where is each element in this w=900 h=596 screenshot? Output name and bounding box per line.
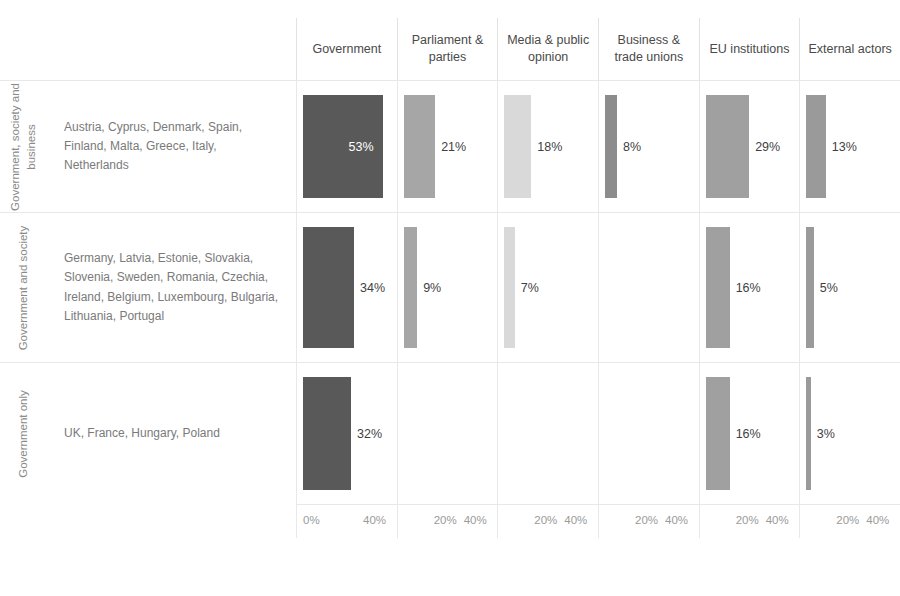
panel-r1-c4: 8% — [598, 80, 699, 212]
bar-wrap: 21% — [404, 95, 494, 198]
chart-grid: GovernmentParliament & partiesMedia & pu… — [0, 18, 900, 538]
axis-panel-3: 20%40% — [497, 504, 598, 538]
country-list-3: UK, France, Hungary, Poland — [48, 362, 296, 504]
axis-tick-label: 40% — [464, 514, 487, 526]
bar-value-label: 8% — [623, 140, 641, 154]
bar-wrap: 16% — [706, 227, 796, 348]
axis-corner-countries — [48, 504, 296, 538]
bar-value-label: 16% — [736, 281, 761, 295]
bar-value-label: 3% — [817, 427, 835, 441]
country-list-text: Germany, Latvia, Estonie, Slovakia, Slov… — [64, 249, 282, 326]
cluster-label-text: Government and society — [16, 225, 32, 350]
bar-value-label: 18% — [537, 140, 562, 154]
column-header-6: External actors — [799, 18, 900, 80]
bar-wrap: 29% — [706, 95, 796, 198]
bar-wrap: 18% — [504, 95, 594, 198]
column-header-2: Parliament & parties — [397, 18, 498, 80]
bar-value-label: 34% — [360, 281, 385, 295]
bar-value-label: 21% — [441, 140, 466, 154]
panel-r1-c3: 18% — [497, 80, 598, 212]
country-list-text: Austria, Cyprus, Denmark, Spain, Finland… — [64, 118, 282, 176]
bar-3-6 — [806, 377, 811, 490]
panel-r2-c6: 5% — [799, 212, 900, 362]
axis-tick-label: 40% — [766, 514, 789, 526]
bar-wrap — [605, 377, 695, 490]
bar-wrap: 16% — [706, 377, 796, 490]
bar-wrap: 8% — [605, 95, 695, 198]
panel-r3-c3 — [497, 362, 598, 504]
bar-wrap: 9% — [404, 227, 494, 348]
panel-r1-c6: 13% — [799, 80, 900, 212]
bar-value-label: 5% — [820, 281, 838, 295]
panel-r3-c1: 32% — [296, 362, 397, 504]
axis-panel-1: 0%40% — [296, 504, 397, 538]
axis-tick-label: 40% — [866, 514, 889, 526]
panel-r3-c6: 3% — [799, 362, 900, 504]
bar-value-label: 16% — [736, 427, 761, 441]
axis-tick-label: 40% — [363, 514, 386, 526]
bar-value-label: 29% — [755, 140, 780, 154]
bar-1-4 — [605, 95, 617, 198]
panel-r1-c5: 29% — [699, 80, 800, 212]
bar-wrap: 3% — [806, 377, 896, 490]
bar-wrap: 13% — [806, 95, 896, 198]
panel-r1-c1: 53% — [296, 80, 397, 212]
axis-tick-label: 20% — [836, 514, 859, 526]
axis-tick-label: 20% — [736, 514, 759, 526]
axis-tick-label: 20% — [534, 514, 557, 526]
panel-r3-c2 — [397, 362, 498, 504]
bar-wrap: 32% — [303, 377, 393, 490]
bar-2-3 — [504, 227, 515, 348]
axis-panel-6: 20%40% — [799, 504, 900, 538]
column-header-4: Business & trade unions — [598, 18, 699, 80]
column-header-label: External actors — [808, 41, 891, 58]
cluster-label-1: Government, society and business — [0, 80, 48, 212]
bar-2-2 — [404, 227, 418, 348]
column-header-5: EU institutions — [699, 18, 800, 80]
column-header-label: Parliament & parties — [404, 32, 492, 66]
panel-r2-c3: 7% — [497, 212, 598, 362]
bar-2-6 — [806, 227, 814, 348]
cluster-label-2: Government and society — [0, 212, 48, 362]
column-header-1: Government — [296, 18, 397, 80]
header-corner-left — [0, 18, 48, 80]
bar-1-6 — [806, 95, 826, 198]
bar-wrap: 7% — [504, 227, 594, 348]
bar-value-label: 13% — [832, 140, 857, 154]
small-multiples-bar-chart: GovernmentParliament & partiesMedia & pu… — [0, 0, 900, 596]
axis-tick-label: 0% — [303, 514, 320, 526]
country-list-2: Germany, Latvia, Estonie, Slovakia, Slov… — [48, 212, 296, 362]
column-header-3: Media & public opinion — [497, 18, 598, 80]
header-corner-countries — [48, 18, 296, 80]
bar-3-5 — [706, 377, 730, 490]
panel-r2-c4 — [598, 212, 699, 362]
axis-tick-label: 20% — [434, 514, 457, 526]
bar-wrap — [605, 227, 695, 348]
panel-r2-c1: 34% — [296, 212, 397, 362]
axis-panel-2: 20%40% — [397, 504, 498, 538]
bar-value-label: 32% — [357, 427, 382, 441]
bar-wrap: 5% — [806, 227, 896, 348]
column-header-label: Business & trade unions — [605, 32, 693, 66]
axis-corner-left — [0, 504, 48, 538]
panel-r2-c2: 9% — [397, 212, 498, 362]
bar-value-label: 9% — [423, 281, 441, 295]
panel-r3-c4 — [598, 362, 699, 504]
country-list-text: UK, France, Hungary, Poland — [64, 424, 220, 443]
axis-panel-5: 20%40% — [699, 504, 800, 538]
bar-value-label: 53% — [349, 140, 374, 154]
cluster-label-3: Government only — [0, 362, 48, 504]
bar-wrap: 53% — [303, 95, 393, 198]
column-header-label: Government — [312, 41, 381, 58]
axis-panel-4: 20%40% — [598, 504, 699, 538]
cluster-label-text: Government, society and business — [8, 82, 39, 212]
bar-wrap — [504, 377, 594, 490]
axis-tick-label: 40% — [564, 514, 587, 526]
column-header-label: Media & public opinion — [504, 32, 592, 66]
country-list-1: Austria, Cyprus, Denmark, Spain, Finland… — [48, 80, 296, 212]
bar-1-2 — [404, 95, 436, 198]
column-header-label: EU institutions — [710, 41, 790, 58]
axis-tick-label: 20% — [635, 514, 658, 526]
bar-2-5 — [706, 227, 730, 348]
panel-r2-c5: 16% — [699, 212, 800, 362]
